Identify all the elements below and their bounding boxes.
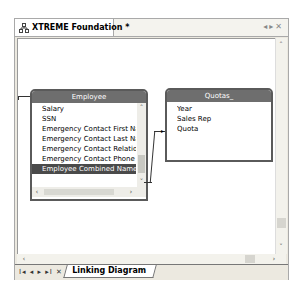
editor-tab[interactable]: XTREME Foundation * [15, 19, 114, 36]
diagram-icon [19, 23, 29, 33]
scroll-thumb[interactable] [138, 155, 145, 173]
tab-title: XTREME Foundation * [32, 23, 129, 32]
scroll-thumb[interactable] [277, 218, 286, 228]
table-header: Quotas_ [167, 90, 271, 102]
canvas-hscroll[interactable]: ‹ › [17, 254, 286, 264]
scroll-left-icon[interactable]: ‹ [19, 254, 29, 264]
table-hscroll[interactable]: ‹ › [32, 187, 146, 197]
arrow-head-icon: ▸ [161, 128, 164, 134]
close-icon[interactable]: ✕ [275, 22, 284, 31]
field-emergency-last[interactable]: Emergency Contact Last Nam [42, 134, 136, 144]
field-sales-rep[interactable]: Sales Rep [177, 114, 271, 124]
scroll-thumb[interactable] [245, 255, 255, 263]
scroll-thumb[interactable] [44, 189, 114, 195]
field-emergency-phone[interactable]: Emergency Contact Phone [42, 154, 136, 164]
table-header: Employee [32, 91, 146, 103]
table-vscroll[interactable]: ˄ ˅ [137, 103, 146, 187]
bottom-tab-bar: I◂ ◂ ▸ ▸I ✕ Linking Diagram [15, 264, 288, 280]
scroll-right-icon[interactable]: › [269, 254, 279, 264]
header-controls: ◂▸✕ [263, 22, 284, 31]
tab-label: Linking Diagram [72, 265, 146, 277]
field-quota[interactable]: Quota [177, 124, 271, 134]
canvas-vscroll[interactable]: ˄ ˅ [275, 38, 287, 254]
scroll-right-icon[interactable]: › [126, 187, 136, 197]
diagram-canvas[interactable]: Employee Salary SSN Emergency Contact Fi… [17, 38, 276, 256]
field-emergency-first[interactable]: Emergency Contact First Nam [42, 124, 136, 134]
scroll-left-icon[interactable]: ‹ [32, 187, 42, 197]
editor-tab-header: XTREME Foundation * ◂▸✕ [15, 19, 288, 37]
scroll-up-icon[interactable]: ˄ [276, 40, 286, 50]
table-quotas[interactable]: Quotas_ Year Sales Rep Quota [165, 88, 273, 162]
field-emergency-relation[interactable]: Emergency Contact Relations [42, 144, 136, 154]
tab-linking-diagram[interactable]: Linking Diagram [63, 265, 156, 278]
field-employee-combined-name[interactable]: Employee Combined Name [32, 164, 136, 174]
editor-window: XTREME Foundation * ◂▸✕ Employee Salary … [14, 18, 289, 280]
tab-nav-buttons[interactable]: I◂ ◂ ▸ ▸I ✕ [19, 268, 63, 276]
field-ssn[interactable]: SSN [42, 114, 136, 124]
link-line [150, 131, 156, 183]
scroll-up-icon[interactable]: ˄ [137, 103, 146, 113]
scroll-down-icon[interactable]: ˅ [276, 242, 286, 252]
table-employee[interactable]: Employee Salary SSN Emergency Contact Fi… [30, 89, 148, 201]
link-line [18, 96, 19, 100]
field-salary[interactable]: Salary [42, 104, 136, 114]
field-year[interactable]: Year [177, 104, 271, 114]
